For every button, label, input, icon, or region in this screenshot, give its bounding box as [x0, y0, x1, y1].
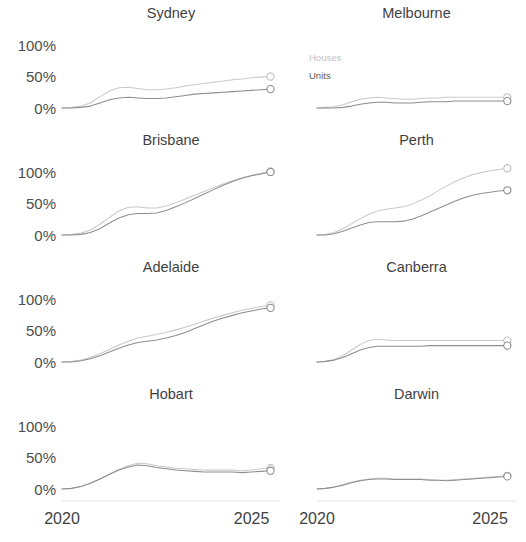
endpoint-marker-units-canberra: [504, 342, 511, 349]
facet-title-adelaide: Adelaide: [143, 259, 199, 275]
facet-sydney: Sydney: [62, 5, 274, 108]
series-line-houses-brisbane: [62, 171, 271, 235]
y-tick-label: 50%: [26, 68, 56, 85]
legend-label-units: Units: [309, 70, 331, 81]
series-line-houses-sydney: [62, 77, 271, 109]
endpoint-marker-units-darwin: [504, 473, 511, 480]
x-tick-label: 2025: [472, 510, 508, 527]
y-axis-row-1: 0%50%100%: [18, 164, 56, 244]
y-tick-label: 100%: [18, 291, 56, 308]
x-tick-label: 2025: [234, 510, 270, 527]
facet-title-perth: Perth: [399, 132, 434, 148]
y-tick-label: 100%: [18, 418, 56, 435]
x-tick-label: 2020: [299, 510, 335, 527]
facet-title-brisbane: Brisbane: [142, 132, 199, 148]
y-tick-label: 50%: [26, 449, 56, 466]
series-line-units-perth: [317, 190, 507, 235]
endpoint-marker-houses-sydney: [267, 73, 274, 80]
y-axis-row-0: 0%50%100%: [18, 37, 56, 117]
y-tick-label: 50%: [26, 195, 56, 212]
x-axis-col-0: 20202025: [44, 510, 269, 527]
y-tick-label: 0%: [34, 100, 56, 117]
y-axis-row-3: 0%50%100%: [18, 418, 56, 498]
facet-darwin: Darwin: [317, 386, 516, 501]
series-line-units-darwin: [317, 476, 507, 489]
series-line-units-hobart: [62, 465, 271, 489]
facet-title-darwin: Darwin: [394, 386, 439, 402]
x-tick-label: 2020: [44, 510, 80, 527]
series-line-units-brisbane: [62, 172, 271, 235]
series-line-units-melbourne: [317, 101, 507, 108]
endpoint-marker-units-perth: [504, 187, 511, 194]
endpoint-marker-units-adelaide: [267, 304, 274, 311]
facet-title-melbourne: Melbourne: [382, 5, 451, 21]
series-line-units-adelaide: [62, 308, 271, 362]
series-line-units-sydney: [62, 89, 271, 108]
y-tick-label: 0%: [34, 481, 56, 498]
y-tick-label: 0%: [34, 354, 56, 371]
y-tick-label: 50%: [26, 322, 56, 339]
y-tick-label: 0%: [34, 227, 56, 244]
facet-title-sydney: Sydney: [147, 5, 196, 21]
facet-melbourne: Melbourne: [317, 5, 511, 108]
endpoint-marker-units-brisbane: [267, 168, 274, 175]
series-line-houses-hobart: [62, 463, 271, 489]
series-line-houses-darwin: [317, 476, 507, 489]
endpoint-marker-units-hobart: [267, 467, 274, 474]
endpoint-marker-houses-perth: [504, 165, 511, 172]
small-multiples-chart: SydneyMelbourneBrisbanePerthAdelaideCanb…: [0, 0, 526, 542]
endpoint-marker-units-melbourne: [504, 97, 511, 104]
legend-label-houses: Houses: [309, 52, 341, 63]
endpoint-marker-units-sydney: [267, 86, 274, 93]
facet-perth: Perth: [317, 132, 511, 235]
facet-hobart: Hobart: [62, 386, 280, 501]
x-axis-col-1: 20202025: [299, 510, 508, 527]
facet-adelaide: Adelaide: [62, 259, 274, 362]
y-tick-label: 100%: [18, 164, 56, 181]
facet-title-canberra: Canberra: [386, 259, 447, 275]
legend: HousesUnits: [309, 52, 341, 81]
facet-title-hobart: Hobart: [149, 386, 193, 402]
series-line-houses-perth: [317, 168, 507, 235]
y-axis-row-2: 0%50%100%: [18, 291, 56, 371]
y-tick-label: 100%: [18, 37, 56, 54]
series-line-houses-canberra: [317, 339, 507, 362]
facet-brisbane: Brisbane: [62, 132, 274, 235]
facet-canberra: Canberra: [317, 259, 511, 362]
facet-grid-svg: SydneyMelbourneBrisbanePerthAdelaideCanb…: [0, 0, 526, 542]
